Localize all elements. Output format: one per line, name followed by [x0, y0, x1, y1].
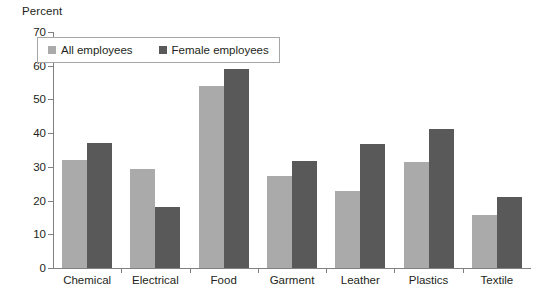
- bar-chart: Percent 010203040506070 ChemicalElectric…: [0, 0, 536, 303]
- bar-group: [267, 32, 317, 268]
- x-axis-category-label: Garment: [270, 274, 315, 286]
- bar: [497, 197, 522, 268]
- bar: [130, 169, 155, 268]
- bar: [87, 143, 112, 268]
- bar: [429, 129, 454, 268]
- x-axis-category-label: Plastics: [409, 274, 449, 286]
- bar: [155, 207, 180, 268]
- y-axis-tick-label: 10: [33, 228, 46, 240]
- bar: [224, 69, 249, 268]
- plot-area: 010203040506070: [53, 32, 531, 268]
- y-axis-tick-mark: [48, 234, 53, 235]
- bar-group: [199, 32, 249, 268]
- y-axis-tick-label: 30: [33, 161, 46, 173]
- legend-entry: All employees: [48, 44, 133, 56]
- y-axis-tick-label: 0: [40, 262, 46, 274]
- y-axis-tick-mark: [48, 133, 53, 134]
- bar: [292, 161, 317, 268]
- legend-entry: Female employees: [159, 44, 269, 56]
- x-axis-tick-mark: [463, 268, 464, 273]
- chart-legend: All employeesFemale employees: [37, 37, 280, 63]
- y-axis-tick-label: 40: [33, 127, 46, 139]
- y-axis-tick-mark: [48, 32, 53, 33]
- y-axis-tick-mark: [48, 66, 53, 67]
- legend-label: Female employees: [172, 44, 269, 56]
- x-axis-category-label: Electrical: [132, 274, 179, 286]
- bar: [404, 162, 429, 268]
- x-axis-category-label: Food: [211, 274, 237, 286]
- bar-group: [472, 32, 522, 268]
- bar: [267, 176, 292, 268]
- x-axis-tick-mark: [121, 268, 122, 273]
- bar: [199, 86, 224, 268]
- bar-group: [130, 32, 180, 268]
- x-axis-line: [53, 268, 531, 269]
- y-axis-tick-mark: [48, 99, 53, 100]
- x-axis-tick-mark: [258, 268, 259, 273]
- y-axis-tick-mark: [48, 167, 53, 168]
- bar-group: [335, 32, 385, 268]
- y-axis-tick-label: 50: [33, 93, 46, 105]
- bar: [360, 144, 385, 268]
- bar: [472, 215, 497, 268]
- x-axis-tick-mark: [394, 268, 395, 273]
- x-axis-category-label: Leather: [341, 274, 380, 286]
- y-axis-tick-mark: [48, 201, 53, 202]
- bar: [335, 191, 360, 268]
- bar-group: [62, 32, 112, 268]
- legend-swatch-icon: [159, 46, 167, 54]
- legend-swatch-icon: [48, 46, 56, 54]
- x-axis-tick-mark: [190, 268, 191, 273]
- y-axis-tick-label: 20: [33, 195, 46, 207]
- x-axis-category-label: Textile: [481, 274, 514, 286]
- legend-label: All employees: [61, 44, 133, 56]
- x-axis-tick-mark: [326, 268, 327, 273]
- x-axis-category-label: Chemical: [63, 274, 111, 286]
- bar-group: [404, 32, 454, 268]
- y-axis-caption: Percent: [22, 5, 62, 17]
- bar: [62, 160, 87, 268]
- y-axis-tick-mark: [48, 268, 53, 269]
